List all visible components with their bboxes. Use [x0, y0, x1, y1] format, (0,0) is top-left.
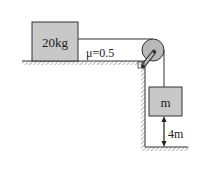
height-label: 4m: [168, 127, 184, 141]
friction-label: μ=0.5: [86, 46, 114, 60]
height-arrow: [162, 116, 167, 147]
pulley-diagram: 20kg μ=0.5 m 4m: [0, 0, 200, 173]
block-m: m: [149, 87, 182, 116]
block-20kg-label: 20kg: [42, 35, 69, 50]
table-edge-wall: [141, 61, 145, 147]
block-20kg: 20kg: [32, 22, 78, 61]
block-m-label: m: [160, 95, 170, 110]
table-surface: [22, 61, 145, 65]
floor: [141, 147, 189, 151]
